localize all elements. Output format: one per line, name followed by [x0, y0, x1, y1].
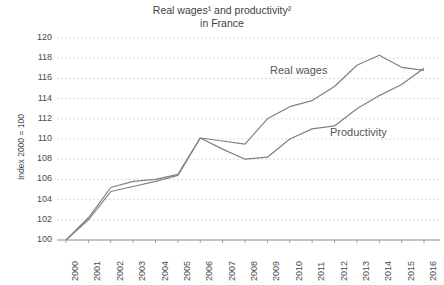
series-label-productivity: Productivity: [330, 126, 387, 138]
series-line-real-wages: [66, 55, 424, 240]
plot-area: [0, 0, 444, 285]
series-line-productivity: [66, 68, 424, 240]
series-label-real-wages: Real wages: [270, 64, 327, 76]
chart-container: Real wages¹ and productivity² in France …: [0, 0, 444, 285]
